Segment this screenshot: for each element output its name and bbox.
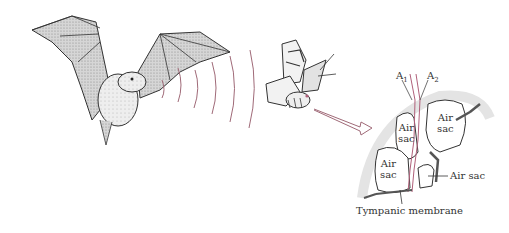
diagram-artwork [0,0,509,233]
label-air-sac-top-right: Air sac [437,112,454,134]
label-air-sac-top-left: Air sac [398,122,415,144]
bat-illustration [32,16,230,145]
label-air-sac-callout: Air sac [450,170,485,181]
pointer-arrow [314,109,372,135]
label-a2: A2 [427,70,439,86]
label-a1: A1 [396,70,408,86]
ear-cross-section [362,74,490,204]
label-air-sac-bottom-left: Air sac [380,158,397,180]
bat-moth-echolocation-diagram: A1 A2 Air sac Air sac Air sac Air sac Ty… [0,0,509,233]
moth-illustration [266,40,336,108]
label-tympanic-membrane: Tympanic membrane [356,205,463,216]
